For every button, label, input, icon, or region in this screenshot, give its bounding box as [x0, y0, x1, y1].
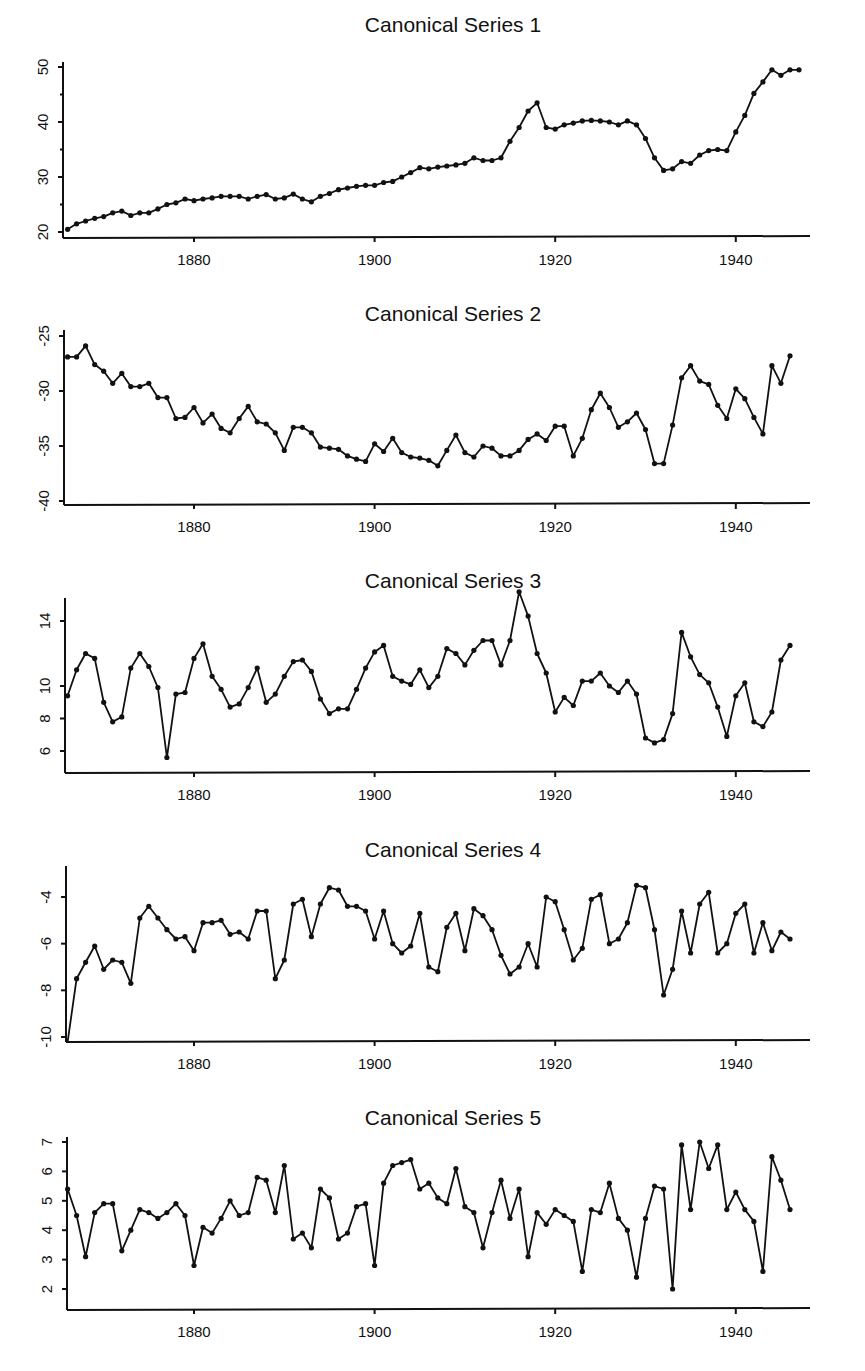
data-point	[128, 666, 133, 671]
data-point	[751, 719, 756, 724]
data-point	[228, 194, 233, 199]
data-point	[390, 1163, 395, 1168]
data-point	[309, 669, 314, 674]
x-axis	[63, 236, 810, 238]
data-point	[598, 118, 603, 123]
data-point	[228, 430, 233, 435]
data-point	[634, 692, 639, 697]
data-point	[92, 656, 97, 661]
data-point	[562, 122, 567, 127]
data-point	[643, 427, 648, 432]
data-point	[345, 185, 350, 190]
data-point	[598, 391, 603, 396]
data-point	[480, 158, 485, 163]
data-point	[273, 976, 278, 981]
series-line	[68, 70, 799, 230]
data-point	[733, 129, 738, 134]
data-point	[652, 1184, 657, 1189]
data-point	[372, 1263, 377, 1268]
data-point	[589, 1207, 594, 1212]
data-point	[435, 165, 440, 170]
x-tick-label: 1940	[719, 251, 752, 268]
x-tick-label: 1920	[539, 786, 572, 803]
data-point	[408, 1157, 413, 1162]
data-point	[652, 461, 657, 466]
data-point	[625, 1228, 630, 1233]
data-point	[507, 971, 512, 976]
data-point	[480, 443, 485, 448]
data-point	[544, 438, 549, 443]
data-point	[155, 685, 160, 690]
data-point	[146, 664, 151, 669]
data-point	[336, 706, 341, 711]
data-point	[65, 1186, 70, 1191]
data-point	[182, 934, 187, 939]
data-point	[489, 158, 494, 163]
data-point	[670, 967, 675, 972]
data-point	[101, 214, 106, 219]
data-point	[444, 646, 449, 651]
data-point	[553, 709, 558, 714]
data-point	[688, 161, 693, 166]
data-point	[119, 1248, 124, 1253]
data-point	[264, 421, 269, 426]
data-point	[607, 1181, 612, 1186]
data-point	[679, 1142, 684, 1147]
data-point	[191, 656, 196, 661]
y-tick-label: 6	[38, 1167, 55, 1175]
data-point	[264, 700, 269, 705]
data-point	[643, 136, 648, 141]
data-point	[92, 216, 97, 221]
data-point	[507, 453, 512, 458]
data-point	[182, 690, 187, 695]
data-point	[164, 395, 169, 400]
data-point	[336, 1236, 341, 1241]
data-point	[282, 195, 287, 200]
data-point	[426, 1181, 431, 1186]
data-point	[228, 1198, 233, 1203]
data-point	[390, 179, 395, 184]
data-point	[119, 960, 124, 965]
data-point	[489, 927, 494, 932]
data-point	[435, 674, 440, 679]
x-tick-label: 1900	[358, 251, 391, 268]
data-point	[291, 1236, 296, 1241]
data-point	[751, 415, 756, 420]
data-point	[715, 403, 720, 408]
data-point	[228, 705, 233, 710]
data-point	[390, 436, 395, 441]
data-point	[119, 209, 124, 214]
data-point	[246, 936, 251, 941]
data-point	[462, 161, 467, 166]
data-point	[327, 191, 332, 196]
data-point	[246, 1210, 251, 1215]
data-point	[390, 674, 395, 679]
data-point	[354, 904, 359, 909]
data-point	[435, 1195, 440, 1200]
data-point	[128, 213, 133, 218]
y-tick-label: -35	[35, 435, 52, 457]
data-point	[246, 404, 251, 409]
data-point	[462, 450, 467, 455]
data-point	[498, 953, 503, 958]
x-tick-label: 1880	[177, 1323, 210, 1340]
data-point	[300, 196, 305, 201]
data-point	[562, 1213, 567, 1218]
y-tick-label: 5	[38, 1197, 55, 1205]
data-point	[363, 908, 368, 913]
data-point	[426, 685, 431, 690]
data-point	[444, 1201, 449, 1206]
data-point	[489, 1210, 494, 1215]
data-point	[724, 148, 729, 153]
y-tick-label: 4	[38, 1226, 55, 1234]
data-point	[354, 184, 359, 189]
data-point	[408, 454, 413, 459]
data-point	[580, 946, 585, 951]
x-tick-label: 1900	[358, 518, 391, 535]
data-point	[715, 705, 720, 710]
data-point	[155, 395, 160, 400]
panel-title: Canonical Series 3	[365, 569, 541, 592]
data-point	[598, 892, 603, 897]
data-point	[372, 183, 377, 188]
data-point	[507, 638, 512, 643]
